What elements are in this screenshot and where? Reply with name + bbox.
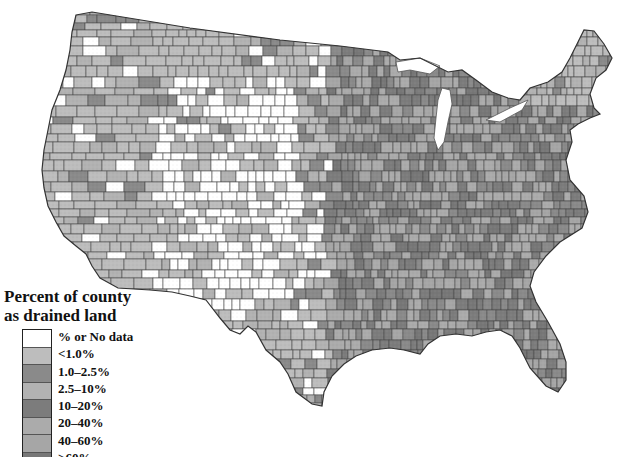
legend-swatch-2 [23,365,51,383]
legend-swatch-1 [23,348,51,366]
legend-label-1: <1.0% [58,345,133,362]
legend-label-5: 20–40% [58,414,133,431]
legend-swatches [22,329,52,457]
legend-label-0: % or No data [58,328,133,345]
legend-label-6: 40–60% [58,432,133,449]
map-legend: Percent of county as drained land % or N… [4,287,164,457]
legend-swatch-6 [23,435,51,453]
legend-label-2: 1.0–2.5% [58,363,133,380]
legend-swatch-3 [23,383,51,401]
legend-swatch-7 [23,453,51,457]
legend-swatch-0 [23,330,51,348]
legend-swatch-4 [23,400,51,418]
legend-label-4: 10–20% [58,397,133,414]
legend-title-line-1: Percent of county [4,287,164,306]
legend-title-line-2: as drained land [4,306,164,325]
legend-swatch-5 [23,418,51,436]
legend-label-7: >60% [58,449,133,457]
legend-label-3: 2.5–10% [58,380,133,397]
